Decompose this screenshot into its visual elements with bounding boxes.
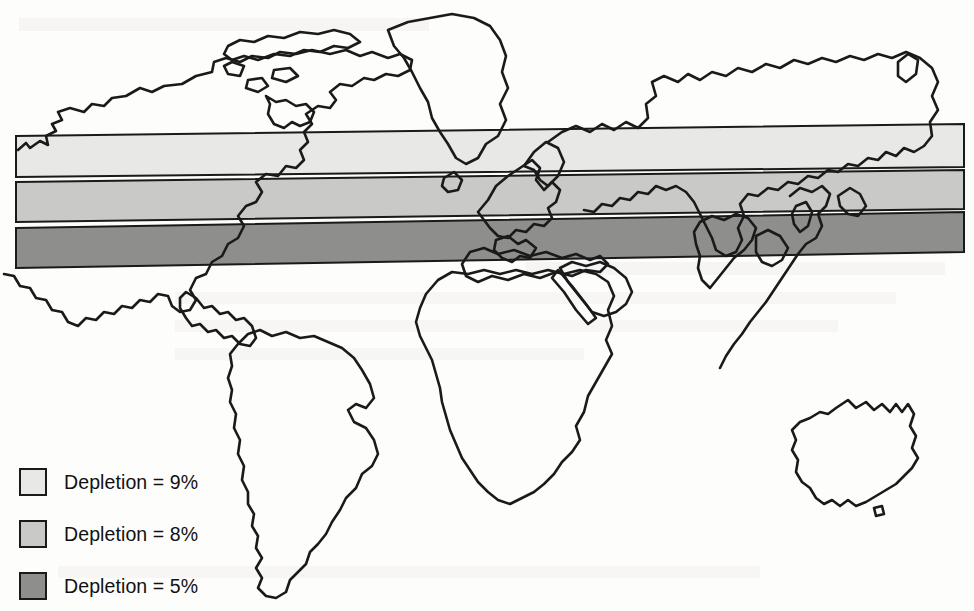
landmass-arabian-peninsula xyxy=(560,262,632,316)
landmass-africa xyxy=(416,270,614,504)
legend-row-5: Depletion = 5% xyxy=(19,560,198,611)
landmass-arctic-island-small-c xyxy=(272,68,298,82)
legend-swatch-8 xyxy=(19,520,47,548)
ozone-depletion-map-figure: Depletion = 9% Depletion = 8% Depletion … xyxy=(0,0,974,611)
legend-label-8: Depletion = 8% xyxy=(64,523,198,546)
landmass-australia xyxy=(792,400,918,506)
landmass-red-sea xyxy=(552,270,596,324)
landmass-arctic-island-small-a xyxy=(224,62,244,76)
legend-row-8: Depletion = 8% xyxy=(19,508,198,560)
landmass-tasmania xyxy=(874,506,884,516)
landmass-canadian-arctic-islands xyxy=(224,30,360,60)
legend-swatch-9 xyxy=(19,468,47,496)
landmass-south-america xyxy=(228,330,378,598)
legend-label-9: Depletion = 9% xyxy=(64,471,198,494)
legend-swatch-5 xyxy=(19,572,47,600)
landmass-arctic-island-small-b xyxy=(246,78,268,92)
band-depletion-9 xyxy=(16,124,964,177)
legend-label-5: Depletion = 5% xyxy=(64,575,198,598)
landmass-kamchatka xyxy=(898,54,918,82)
legend-row-9: Depletion = 9% xyxy=(19,456,198,508)
legend: Depletion = 9% Depletion = 8% Depletion … xyxy=(19,456,198,611)
